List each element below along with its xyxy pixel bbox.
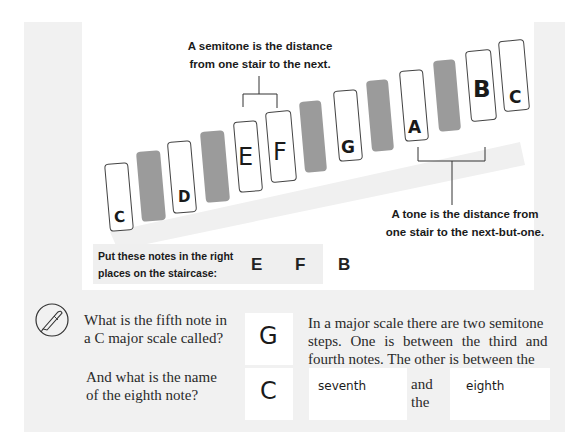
draggable-note-e[interactable]: E	[251, 255, 262, 275]
stair-label: G	[341, 137, 355, 157]
statement-line: fourth notes. The other is between the	[308, 350, 570, 368]
connector-line: and	[411, 375, 433, 393]
stair-label: A	[408, 117, 421, 137]
connector-line: the	[411, 393, 433, 411]
question-line: What is the fifth note in	[84, 311, 227, 329]
answer-fifth-note-value: G	[259, 322, 278, 350]
semitone-steps-statement: In a major scale there are two semitone …	[308, 314, 570, 368]
instruction-line: Put these notes in the right	[98, 248, 233, 265]
caption-line: A tone is the distance from	[370, 205, 560, 223]
question-line: And what is the name	[86, 368, 217, 386]
connector-text: and the	[411, 375, 433, 411]
draggable-note-f[interactable]: F	[295, 255, 305, 275]
tone-caption: A tone is the distance from one stair to…	[370, 205, 560, 241]
answer-second-semitone-value: eighth	[466, 379, 504, 393]
stair-label: C	[113, 208, 126, 227]
answer-eighth-note-value: C	[260, 377, 277, 405]
instruction-line: places on the staircase:	[98, 265, 233, 282]
statement-line: In a major scale there are two semitone	[308, 314, 570, 332]
semitone-caption: A semitone is the distance from one stai…	[150, 37, 370, 73]
stair-label: C	[509, 87, 521, 107]
exercise-instruction: Put these notes in the right places on t…	[98, 248, 233, 282]
question-line: a C major scale called?	[84, 329, 227, 347]
caption-line: A semitone is the distance	[150, 37, 370, 55]
question-eighth-note: And what is the name of the eighth note?	[86, 368, 217, 404]
question-line: of the eighth note?	[86, 386, 217, 404]
pen-icon	[34, 302, 70, 338]
caption-line: from one stair to the next.	[150, 55, 370, 73]
draggable-note-b[interactable]: B	[338, 255, 350, 275]
stair-label: D	[178, 188, 190, 206]
stair-label: E	[238, 143, 253, 171]
answer-first-semitone-field[interactable]	[309, 368, 407, 420]
caption-line: one stair to the next-but-one.	[370, 223, 560, 241]
statement-line: steps. One is between the third and	[308, 332, 570, 350]
stair-label: F	[273, 138, 287, 166]
answer-first-semitone-value: seventh	[318, 379, 366, 393]
question-fifth-note: What is the fifth note in a C major scal…	[84, 311, 227, 347]
answer-second-semitone-field[interactable]	[450, 368, 550, 420]
stair-label: B	[473, 76, 491, 102]
